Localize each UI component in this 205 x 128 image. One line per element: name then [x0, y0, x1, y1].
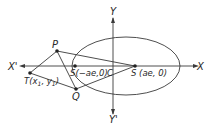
- label-S1: S(−ae,0): [70, 68, 108, 78]
- label-P: P: [52, 39, 59, 50]
- point-T: [28, 71, 32, 75]
- label-x-neg: X': [7, 61, 18, 72]
- label-C: C: [107, 68, 113, 78]
- label-S2: S (ae, 0): [131, 68, 167, 78]
- label-x: X: [196, 61, 205, 72]
- ellipse-diagram: X X' Y Y' P Q C S(−ae,0) S (ae, 0) T(x1,…: [0, 0, 205, 128]
- label-T: T(x1, y1): [24, 76, 59, 87]
- label-y-neg: Y': [109, 114, 118, 125]
- line-PS: [57, 51, 135, 66]
- label-y: Y: [110, 6, 117, 17]
- x-axis-arrow-left-icon: [19, 64, 25, 68]
- label-Q: Q: [72, 91, 80, 102]
- y-axis-arrow-up-icon: [111, 17, 115, 23]
- tangent-TP: [30, 51, 57, 73]
